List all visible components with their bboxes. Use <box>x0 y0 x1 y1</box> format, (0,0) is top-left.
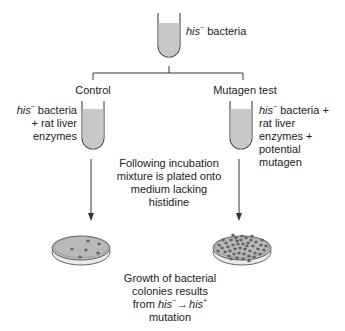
incubation-note: Following incubation mixture is plated o… <box>100 157 238 209</box>
right-arrow-icon: → <box>176 298 189 310</box>
control-arrow <box>88 159 94 221</box>
top-test-tube <box>158 13 180 57</box>
incubation-line2: mixture is plated onto <box>100 170 238 183</box>
result-line4: mutation <box>100 311 240 324</box>
top-tube-label: his− bacteria <box>186 25 306 38</box>
result-line2: colonies results <box>100 285 240 298</box>
mutagen-test-tube <box>230 101 252 149</box>
incubation-line3: medium lacking <box>100 183 238 196</box>
control-label-line2: + rat liver <box>0 117 77 130</box>
mutagen-label-line2: rat liver <box>259 117 345 130</box>
his-gene-text: his <box>186 25 200 37</box>
control-tube-label: his− bacteria + rat liver enzymes <box>0 104 77 143</box>
result-line3: from his−→his+ <box>100 298 240 311</box>
his-gene-text: his <box>17 104 31 116</box>
mutagen-label-line3: enzymes + <box>259 130 345 143</box>
mutagen-label-line4: potential <box>259 143 345 156</box>
mutagen-title: Mutagen test <box>195 84 295 97</box>
his-gene-text: his <box>189 298 203 310</box>
control-label-line1: his− bacteria <box>0 104 77 117</box>
mutagen-label-line1: his− bacteria + <box>259 104 345 117</box>
bacteria-text: bacteria <box>204 25 246 37</box>
mutagen-petri-dish <box>213 234 271 265</box>
incubation-line1: Following incubation <box>100 157 238 170</box>
control-label-line3: enzymes <box>0 130 77 143</box>
branch-connector <box>93 66 243 80</box>
bacteria-text: bacteria <box>35 104 77 116</box>
result-note: Growth of bacterial colonies results fro… <box>100 272 240 324</box>
control-title: Control <box>53 84 133 97</box>
result-line1: Growth of bacterial <box>100 272 240 285</box>
control-petri-dish <box>52 236 110 265</box>
control-test-tube <box>82 101 104 149</box>
plus-superscript: + <box>203 297 207 304</box>
mutagen-tube-label: his− bacteria + rat liver enzymes + pote… <box>259 104 345 169</box>
mutagen-label-line5: mutagen <box>259 156 345 169</box>
incubation-line4: histidine <box>100 196 238 209</box>
bacteria-text: bacteria + <box>277 104 329 116</box>
his-gene-text: his <box>158 298 172 310</box>
from-text: from <box>133 298 158 310</box>
his-gene-text: his <box>259 104 273 116</box>
